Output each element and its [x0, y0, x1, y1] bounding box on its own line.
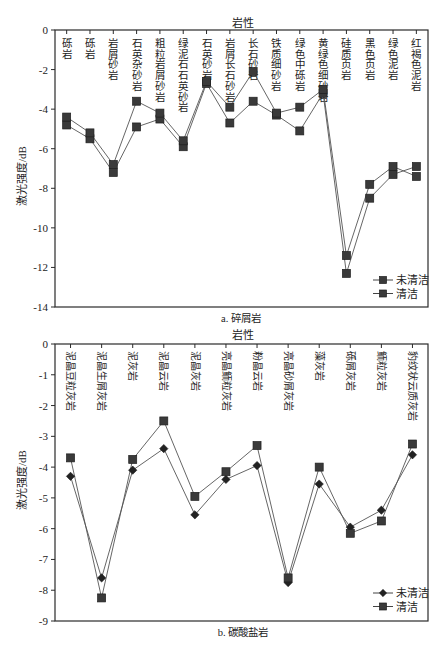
category-label: 豹纹状云质灰岩: [407, 351, 419, 421]
data-point: [133, 123, 141, 131]
category-label: 泥晶灰岩: [190, 351, 202, 391]
category-label: 绿色中砾岩: [295, 37, 306, 92]
category-label: 亮晶鲕粒灰岩: [221, 351, 233, 411]
y-tick-label: -4: [39, 103, 49, 115]
data-point: [109, 168, 117, 176]
data-point: [133, 97, 141, 105]
data-point: [389, 170, 397, 178]
data-point: [249, 68, 257, 76]
data-point: [272, 109, 280, 117]
data-point: [249, 97, 257, 105]
y-tick-label: -9: [39, 615, 49, 627]
data-point: [179, 137, 187, 145]
figure: 岩性 激光强度/dB a. 碎屑岩 0-2-4-6-8-10-12-14砾岩砾岩…: [0, 0, 444, 650]
data-point: [98, 594, 106, 602]
data-point: [412, 172, 420, 180]
y-tick-label: 0: [43, 24, 49, 36]
x-axis-title: 岩性: [232, 328, 254, 341]
data-point: [109, 161, 117, 169]
y-tick-label: -2: [39, 400, 48, 412]
y-tick-label: -7: [39, 553, 49, 565]
square-marker-icon: [380, 603, 387, 610]
data-point: [296, 127, 304, 135]
data-point: [63, 113, 71, 121]
data-point: [63, 121, 71, 129]
category-label: 粉晶云岩: [252, 351, 264, 391]
y-tick-label: -8: [39, 182, 49, 194]
category-label: 泥晶豆粒灰岩: [65, 351, 77, 411]
data-point: [315, 463, 323, 471]
category-label: 粗粒岩屑砂岩: [155, 38, 166, 103]
y-tick-label: -5: [39, 492, 49, 504]
data-point: [319, 85, 327, 93]
data-point: [296, 103, 304, 111]
data-point: [366, 194, 374, 202]
data-point: [191, 492, 199, 500]
data-point: [366, 180, 374, 188]
y-tick-label: -10: [33, 222, 48, 234]
data-point: [346, 529, 354, 537]
y-tick-label: -6: [39, 523, 49, 535]
data-point: [129, 455, 137, 463]
data-point: [156, 109, 164, 117]
category-label: 铁质细砂岩: [271, 37, 282, 92]
category-label: 泥晶云岩: [158, 351, 170, 391]
category-label: 岩屑长石砂岩: [225, 37, 236, 103]
y-tick-label: -3: [39, 430, 49, 442]
data-point: [253, 442, 261, 450]
y-tick-label: -8: [39, 584, 49, 596]
category-label: 岩屑砂岩: [108, 37, 119, 81]
data-point: [284, 574, 292, 582]
category-label: 红褐色泥岩: [411, 37, 422, 92]
category-label: 泥灰岩: [127, 351, 139, 381]
data-point: [377, 517, 385, 525]
data-point: [67, 454, 75, 462]
legend-label: 清洁: [396, 601, 418, 613]
y-tick-label: -4: [39, 461, 49, 473]
y-axis-title: 激光强度/dB: [15, 450, 28, 510]
chart-caption: b. 碳酸盐岩: [218, 626, 269, 638]
square-marker-icon: [380, 277, 387, 284]
category-label: 亮晶砂屑灰岩: [283, 351, 295, 411]
y-tick-label: -1: [39, 369, 48, 381]
data-point: [226, 103, 234, 111]
data-point: [160, 417, 168, 425]
category-label: 鲕粒灰岩: [376, 351, 388, 391]
category-label: 石英杂砂岩: [132, 38, 143, 92]
category-label: 绿泥石石英砂岩: [178, 37, 189, 113]
category-label: 砾岩: [62, 37, 73, 60]
category-label: 绿色泥岩: [388, 37, 399, 81]
data-point: [342, 252, 350, 260]
figure-background: [0, 0, 444, 650]
legend-label: 清洁: [396, 288, 418, 300]
category-label: 砾屑灰岩: [345, 351, 357, 391]
data-point: [389, 163, 397, 171]
data-point: [412, 163, 420, 171]
data-point: [222, 468, 230, 476]
data-point: [342, 269, 350, 277]
category-label: 砾岩: [85, 37, 96, 60]
category-label: 藻灰岩: [314, 351, 326, 381]
data-point: [86, 129, 94, 137]
data-point: [203, 77, 211, 85]
y-tick-label: -2: [39, 64, 48, 76]
y-tick-label: -14: [33, 301, 48, 313]
y-tick-label: -12: [33, 261, 48, 273]
data-point: [226, 119, 234, 127]
y-tick-label: -6: [39, 143, 49, 155]
category-label: 泥晶生屑灰岩: [96, 351, 108, 411]
data-point: [408, 440, 416, 448]
y-tick-label: 0: [43, 338, 49, 350]
category-label: 硅质页岩: [341, 37, 352, 81]
square-marker-icon: [380, 290, 387, 297]
x-axis-title: 岩性: [232, 16, 254, 29]
legend-label: 未清洁: [396, 587, 429, 599]
category-label: 石英砂岩: [202, 38, 213, 81]
legend-label: 未清洁: [396, 274, 429, 286]
chart-caption: a. 碎屑岩: [221, 312, 261, 324]
category-label: 黑色页岩: [365, 38, 376, 81]
y-axis-title: 激光强度/dB: [15, 146, 28, 206]
